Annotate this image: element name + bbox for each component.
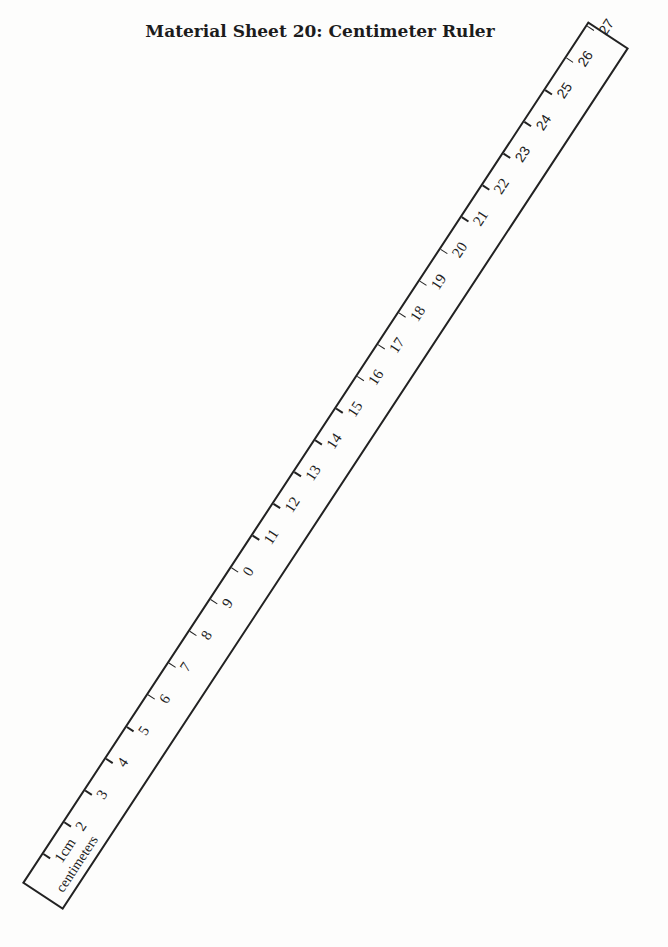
page-title: Material Sheet 20: Centimeter Ruler (0, 21, 640, 41)
ruler-label: 3 (93, 787, 110, 802)
ruler-label: 15 (344, 398, 366, 419)
ruler-label: 5 (135, 723, 152, 738)
ruler-label: 22 (490, 175, 512, 196)
ruler-tick (315, 440, 323, 446)
ruler-tick (294, 471, 302, 477)
ruler-label: 25 (553, 79, 575, 101)
centimeter-ruler: centimeters 1cm2345678901112131415161718… (22, 21, 629, 910)
ruler-label: 24 (532, 111, 554, 133)
ruler-tick (147, 694, 155, 700)
ruler-label: 20 (449, 239, 471, 260)
ruler-label: 4 (114, 755, 131, 770)
ruler-label: 17 (386, 335, 408, 356)
ruler-tick (524, 121, 532, 127)
ruler-tick (357, 376, 365, 382)
ruler-tick (503, 153, 511, 159)
ruler-tick (231, 567, 239, 573)
ruler-tick (210, 599, 218, 605)
ruler-tick (168, 663, 176, 669)
ruler-label: 8 (198, 628, 215, 643)
ruler-tick (273, 503, 281, 509)
ruler-tick (398, 312, 406, 318)
ruler-label: 26 (574, 48, 596, 70)
ruler-label: 11 (260, 526, 281, 547)
ruler-tick (252, 535, 260, 541)
ruler-label: 7 (177, 659, 194, 674)
ruler-label: 21 (470, 207, 492, 228)
ruler-label: 14 (323, 430, 345, 451)
ruler-label: 13 (302, 462, 324, 483)
ruler-tick (127, 726, 135, 732)
ruler-tick (189, 631, 197, 637)
ruler-tick (545, 89, 553, 95)
ruler-tick (378, 344, 386, 350)
ruler-tick (587, 26, 595, 32)
ruler-tick (440, 249, 448, 255)
ruler-label: 19 (428, 271, 450, 292)
ruler-tick (64, 822, 72, 828)
ruler-label: 16 (365, 367, 387, 388)
ruler-label: 18 (407, 303, 429, 324)
ruler-label: 9 (219, 596, 236, 611)
ruler-label: 23 (511, 143, 533, 165)
ruler-label: 6 (156, 691, 173, 706)
ruler-tick (85, 790, 93, 796)
ruler-tick (566, 57, 574, 63)
ruler-tick (43, 854, 51, 860)
ruler-label: 12 (281, 494, 303, 515)
ruler-tick (482, 185, 490, 191)
ruler-tick (419, 280, 427, 286)
ruler-tick (461, 217, 469, 223)
ruler-label: 0 (239, 564, 256, 579)
ruler-tick (106, 758, 114, 764)
ruler-tick (336, 408, 344, 414)
ruler-label: 2 (72, 819, 89, 834)
